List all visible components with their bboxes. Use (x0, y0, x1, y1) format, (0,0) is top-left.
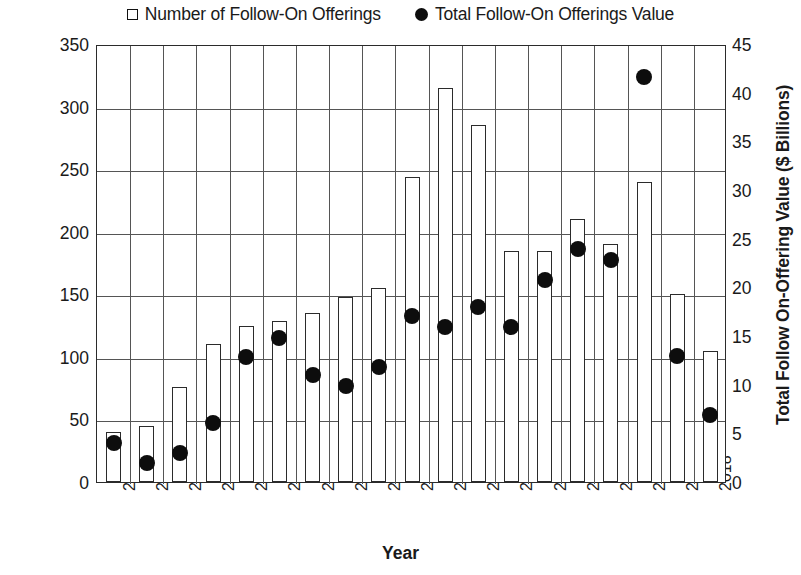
category-separator (163, 46, 164, 484)
data-point (636, 69, 652, 85)
category-separator (462, 46, 463, 484)
right-tick-label: 30 (732, 182, 792, 200)
legend-entry-dots: Total Follow-On Offerings Value (415, 4, 674, 25)
data-point (305, 367, 321, 383)
left-tick-label: 150 (29, 286, 89, 304)
category-separator (561, 46, 562, 484)
right-tick-label: 45 (732, 36, 792, 54)
category-separator (628, 46, 629, 484)
legend-label-bars: Number of Follow-On Offerings (145, 4, 381, 25)
left-tick-label: 350 (29, 36, 89, 54)
category-separator (528, 46, 529, 484)
bar (172, 387, 187, 482)
category-separator (130, 46, 131, 484)
right-tick-label: 20 (732, 279, 792, 297)
category-separator (196, 46, 197, 484)
right-tick-label: 15 (732, 328, 792, 346)
left-tick-label: 100 (29, 349, 89, 367)
bar (670, 294, 685, 482)
category-separator (661, 46, 662, 484)
bar (305, 313, 320, 482)
data-point (603, 252, 619, 268)
category-separator (694, 46, 695, 484)
category-separator (296, 46, 297, 484)
category-separator (495, 46, 496, 484)
left-tick-label: 300 (29, 99, 89, 117)
legend-label-dots: Total Follow-On Offerings Value (435, 4, 674, 25)
category-separator (263, 46, 264, 484)
chart-legend: Number of Follow-On Offerings Total Foll… (0, 4, 801, 25)
data-point (205, 415, 221, 431)
right-tick-label: 10 (732, 377, 792, 395)
bar (371, 288, 386, 482)
left-tick-label: 0 (29, 474, 89, 492)
category-separator (594, 46, 595, 484)
gridline (97, 171, 725, 172)
gridline (97, 109, 725, 110)
bar (504, 251, 519, 483)
right-tick-label: 35 (732, 133, 792, 151)
bar-swatch-icon (127, 9, 138, 20)
category-separator (230, 46, 231, 484)
right-tick-label: 25 (732, 231, 792, 249)
legend-entry-bars: Number of Follow-On Offerings (127, 4, 381, 25)
category-separator (429, 46, 430, 484)
right-tick-label: 5 (732, 425, 792, 443)
dot-swatch-icon (415, 8, 428, 21)
bar (405, 177, 420, 482)
bar (438, 88, 453, 482)
bar (570, 219, 585, 482)
left-tick-label: 50 (29, 411, 89, 429)
left-tick-label: 200 (29, 224, 89, 242)
follow-on-offerings-chart: Number of Follow-On Offerings Total Foll… (0, 0, 801, 575)
plot-area (96, 45, 726, 483)
right-tick-label: 40 (732, 85, 792, 103)
data-point (338, 378, 354, 394)
data-point (106, 435, 122, 451)
category-separator (329, 46, 330, 484)
data-point (371, 359, 387, 375)
data-point (139, 455, 155, 471)
right-tick-label: 0 (732, 474, 792, 492)
bar (603, 244, 618, 482)
bar (206, 344, 221, 482)
data-point (537, 272, 553, 288)
category-separator (362, 46, 363, 484)
data-point (172, 445, 188, 461)
x-axis-title: Year (0, 543, 801, 564)
bar (139, 426, 154, 482)
left-tick-label: 250 (29, 161, 89, 179)
category-separator (395, 46, 396, 484)
data-point (404, 308, 420, 324)
bar (637, 182, 652, 482)
